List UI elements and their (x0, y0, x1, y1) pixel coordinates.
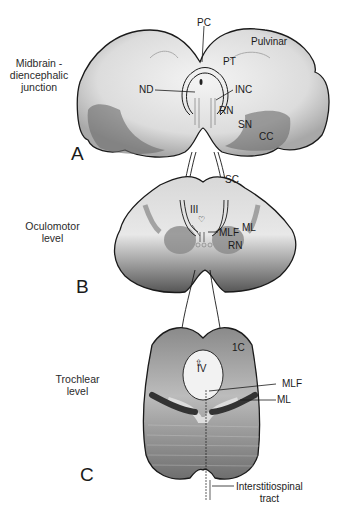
label-rn-b: RN (228, 240, 242, 251)
label-interstitiospinal-tract: Interstitiospinal tract (236, 481, 303, 505)
label-pulvinar: Pulvinar (251, 36, 287, 47)
label-mlf-b: MLF (219, 227, 239, 238)
panel-letter-a: A (71, 144, 84, 164)
label-mlf-c: MLF (282, 378, 302, 389)
level-label-trochlear: Trochlear level (50, 373, 105, 397)
section-c-trochlear: ⇧ (143, 328, 276, 500)
label-inc: INC (235, 84, 252, 95)
level-label-oculomotor: Oculomotor level (20, 220, 85, 244)
panel-letter-c: C (80, 465, 94, 485)
section-b-oculomotor: ♡ (115, 177, 296, 293)
label-pc: PC (197, 17, 211, 28)
label-ml-c: ML (277, 394, 291, 405)
section-a-midbrain-diencephalic (77, 26, 329, 157)
label-1c: 1C (232, 342, 245, 353)
label-cc: CC (259, 131, 273, 142)
level-label-midbrain: Midbrain - diencephalic junction (4, 57, 74, 93)
label-ml-b: ML (242, 222, 256, 233)
panel-letter-b: B (76, 277, 89, 297)
label-nd: ND (139, 84, 153, 95)
label-sn: SN (238, 119, 252, 130)
label-rn-a: RN (219, 105, 233, 116)
label-pt: PT (223, 56, 236, 67)
label-sc: SC (225, 174, 239, 185)
label-iv: IV (197, 363, 206, 374)
label-iii: III (190, 204, 198, 215)
svg-text:♡: ♡ (198, 215, 205, 224)
